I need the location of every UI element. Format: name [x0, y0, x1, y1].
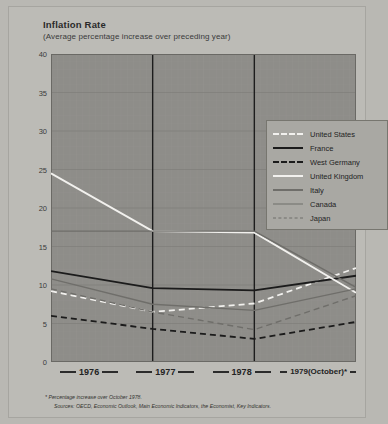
y-axis: 0510152025303540 [23, 54, 47, 362]
chart-card: Inflation Rate (Average percentage incre… [8, 6, 366, 418]
footnote-sources: Sources: OECD, Economic Outlook, Main Ec… [54, 403, 271, 409]
legend-swatch-france [273, 143, 303, 153]
x-rule-right [102, 371, 118, 373]
legend-item-united-states[interactable]: United States [267, 127, 387, 141]
legend-label: United Kingdom [310, 172, 363, 181]
legend-item-canada[interactable]: Canada [267, 197, 387, 211]
legend-label: West Germany [310, 158, 360, 167]
legend-label: Canada [310, 200, 336, 209]
y-tick-label: 35 [25, 88, 47, 97]
legend-swatch-italy [273, 185, 303, 195]
legend-swatch-united-kingdom [273, 171, 303, 181]
legend-label: United States [310, 130, 355, 139]
x-rule-left [60, 371, 76, 373]
x-tick-label: 1978 [229, 367, 255, 377]
x-rule-left [280, 371, 287, 373]
legend-label: France [310, 144, 333, 153]
y-tick-label: 5 [25, 319, 47, 328]
x-tick-group: 1978 [204, 367, 280, 377]
legend-label: Italy [310, 186, 324, 195]
y-tick-label: 40 [25, 50, 47, 59]
y-tick-label: 30 [25, 127, 47, 136]
y-tick-label: 0 [25, 358, 47, 367]
x-tick-group: 1977 [127, 367, 203, 377]
chart-subtitle: (Average percentage increase over preced… [43, 32, 231, 41]
y-tick-label: 20 [25, 204, 47, 213]
x-tick-group: 1976 [51, 367, 127, 377]
legend-swatch-united-states [273, 129, 303, 139]
footnote-note: * Percentage increase over October 1978. [45, 394, 142, 400]
legend-item-west-germany[interactable]: West Germany [267, 155, 387, 169]
legend-item-france[interactable]: France [267, 141, 387, 155]
x-rule-left [213, 371, 229, 373]
page-title: Inflation Rate [43, 19, 106, 30]
legend-item-italy[interactable]: Italy [267, 183, 387, 197]
x-tick-label: 1977 [152, 367, 178, 377]
x-tick-label: 1976 [76, 367, 102, 377]
y-tick-label: 10 [25, 281, 47, 290]
x-rule-right [255, 371, 271, 373]
y-tick-label: 25 [25, 165, 47, 174]
x-tick-group: 1979(October)* [280, 367, 356, 376]
plot-area: United States France West Germany United… [51, 54, 356, 362]
x-axis: 1976197719781979(October)* [51, 367, 361, 383]
legend-item-japan[interactable]: Japan [267, 211, 387, 225]
legend: United States France West Germany United… [266, 120, 388, 230]
x-rule-right [178, 371, 194, 373]
legend-swatch-west-germany [273, 157, 303, 167]
x-rule-right [350, 371, 356, 373]
legend-swatch-japan [273, 213, 303, 223]
legend-label: Japan [310, 214, 330, 223]
legend-swatch-canada [273, 199, 303, 209]
x-rule-left [136, 371, 152, 373]
x-tick-label: 1979(October)* [287, 367, 350, 376]
y-tick-label: 15 [25, 242, 47, 251]
legend-item-united-kingdom[interactable]: United Kingdom [267, 169, 387, 183]
